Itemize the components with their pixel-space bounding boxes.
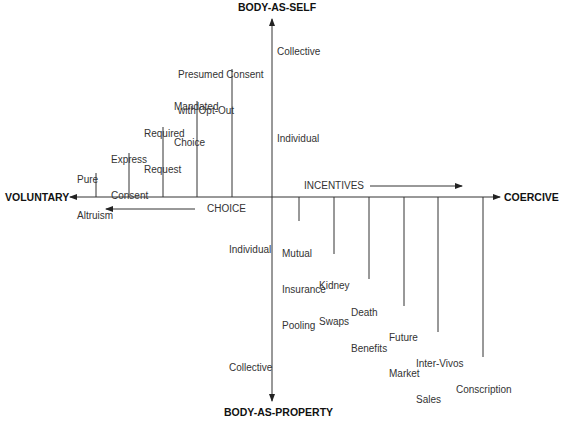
label-upper-collective: Collective: [277, 46, 320, 58]
label-choice: CHOICE: [207, 203, 246, 215]
label-incentives: INCENTIVES: [304, 180, 364, 192]
axis-label-body-as-self: BODY-AS-SELF: [238, 1, 316, 13]
item-presumed-consent: Presumed Consent with Opt-Out: [178, 45, 264, 129]
axis-label-coercive: COERCIVE: [504, 191, 559, 203]
item-pure-altruism: Pure Altruism: [77, 150, 113, 234]
label-lower-individual: Individual: [229, 244, 271, 256]
axis-label-voluntary: VOLUNTARY: [5, 191, 69, 203]
label-lower-collective: Collective: [229, 362, 272, 374]
item-death-benefits: Death Benefits: [351, 283, 387, 367]
item-kidney-swaps: Kidney Swaps: [319, 256, 350, 340]
item-express-consent: Express Consent: [111, 130, 148, 214]
item-conscription: Conscription: [456, 360, 512, 408]
axis-label-body-as-property: BODY-AS-PROPERTY: [224, 406, 333, 418]
label-upper-individual: Individual: [277, 133, 319, 145]
item-future-market: Future Market: [389, 308, 420, 392]
